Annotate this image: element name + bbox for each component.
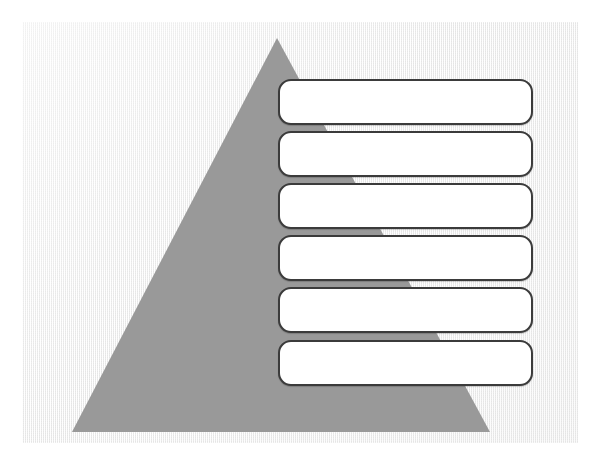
pyramid-level-5-box[interactable] [278,287,533,333]
pyramid-level-list [0,0,605,464]
slide-stage [0,0,605,464]
pyramid-level-2-box[interactable] [278,131,533,177]
pyramid-level-1-box[interactable] [278,79,533,125]
pyramid-level-3-box[interactable] [278,183,533,229]
pyramid-level-4-box[interactable] [278,235,533,281]
pyramid-level-6-box[interactable] [278,340,533,386]
pyramid-diagram[interactable] [0,0,605,464]
